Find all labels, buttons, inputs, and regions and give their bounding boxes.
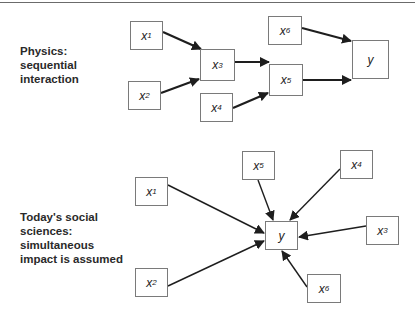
- social-arrow-x6-to-y: [282, 251, 307, 287]
- variable-name: y: [368, 53, 374, 67]
- social-node-x5: x5: [242, 151, 275, 180]
- physics-arrow-x1-to-x3: [163, 32, 201, 49]
- social-arrow-x5-to-y: [258, 180, 273, 220]
- variable-subscript: 3: [218, 61, 222, 70]
- social-node-x3: x3: [366, 216, 399, 245]
- variable-subscript: 1: [152, 187, 156, 196]
- variable-subscript: 3: [383, 226, 387, 235]
- variable-subscript: 6: [325, 284, 329, 293]
- physics-node-x1: x1: [130, 21, 163, 50]
- physics-node-y: y: [352, 40, 389, 79]
- variable-subscript: 4: [357, 160, 361, 169]
- social-arrow-x3-to-y: [299, 226, 366, 237]
- physics-node-x5: x5: [269, 64, 303, 96]
- physics-arrow-x6-to-y: [302, 28, 351, 41]
- physics-node-x2: x2: [128, 81, 161, 110]
- social-node-x4: x4: [340, 150, 373, 179]
- physics-arrow-x2-to-x3: [161, 79, 199, 93]
- social-node-x6: x6: [307, 274, 341, 303]
- social-node-x2: x2: [135, 268, 168, 297]
- variable-subscript: 1: [147, 31, 151, 40]
- variable-subscript: 5: [259, 161, 263, 170]
- social-arrow-x2-to-y: [168, 241, 264, 286]
- variable-name: y: [279, 229, 285, 243]
- physics-arrow-x4-to-x5: [233, 93, 268, 108]
- social-node-y: y: [265, 221, 298, 250]
- variable-subscript: 5: [287, 76, 291, 85]
- physics-node-x4: x4: [200, 93, 233, 122]
- social-node-x1: x1: [135, 177, 168, 206]
- social-arrow-x4-to-y: [290, 169, 340, 220]
- social-panel-label: Today's social sciences: simultaneous im…: [20, 210, 123, 266]
- physics-panel-label: Physics: sequential interaction: [20, 44, 79, 86]
- social-arrow-x1-to-y: [168, 185, 264, 233]
- physics-node-x3: x3: [200, 49, 235, 81]
- variable-subscript: 6: [286, 26, 290, 35]
- variable-subscript: 2: [145, 91, 149, 100]
- variable-subscript: 2: [152, 278, 156, 287]
- variable-subscript: 4: [217, 103, 221, 112]
- physics-node-x6: x6: [268, 16, 302, 45]
